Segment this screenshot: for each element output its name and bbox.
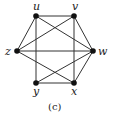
node-u <box>33 13 39 19</box>
node-label-v: v <box>72 0 79 13</box>
node-label-y: y <box>32 85 40 98</box>
edges <box>17 16 93 83</box>
node-label-x: x <box>71 85 78 98</box>
node-w <box>90 48 96 54</box>
figure-caption: (c) <box>48 101 62 112</box>
node-z <box>14 48 20 54</box>
node-label-u: u <box>33 0 40 13</box>
node-label-w: w <box>98 45 108 58</box>
node-label-z: z <box>4 45 11 58</box>
node-v <box>71 13 77 19</box>
nodes <box>14 13 96 86</box>
graph-diagram: uvwxyz (c) <box>0 0 114 115</box>
